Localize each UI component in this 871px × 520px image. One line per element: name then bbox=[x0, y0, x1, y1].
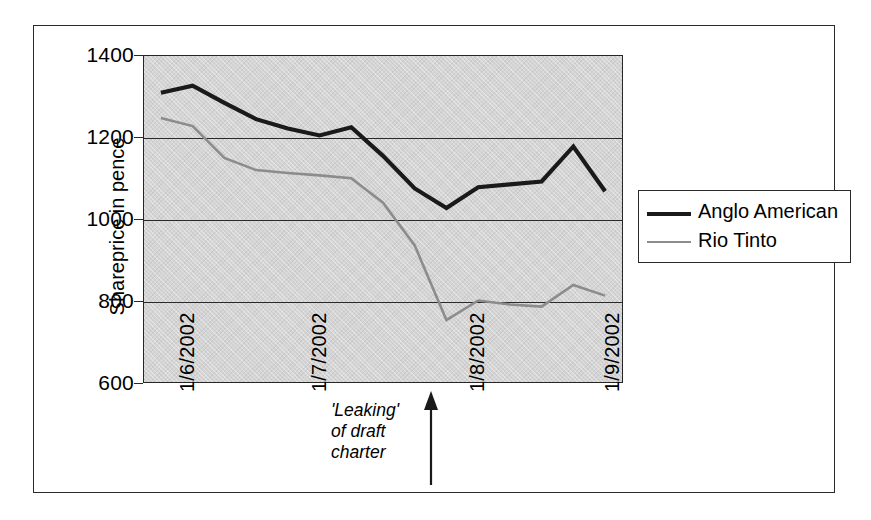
legend-label-rio-tinto: Rio Tinto bbox=[698, 229, 777, 252]
up-arrow-icon bbox=[421, 390, 441, 485]
series-line-anglo-american bbox=[161, 86, 605, 208]
legend-item-rio-tinto: Rio Tinto bbox=[647, 226, 838, 255]
y-tick-mark-1400 bbox=[134, 55, 143, 56]
legend-swatch-anglo-american bbox=[647, 205, 691, 219]
annotation-line-2: of draft bbox=[331, 421, 427, 442]
y-axis-title: Shareprice in pence bbox=[106, 77, 129, 377]
series-line-rio-tinto bbox=[161, 118, 605, 320]
x-tick-label-1-8-2002: 1/8/2002 bbox=[466, 313, 489, 392]
y-tick-mark-1000 bbox=[134, 219, 143, 220]
annotation-line-1: 'Leaking' bbox=[331, 400, 427, 421]
y-tick-label-1400: 1400 bbox=[86, 44, 134, 65]
x-tick-label-1-6-2002: 1/6/2002 bbox=[176, 313, 199, 392]
legend-swatch-rio-tinto bbox=[647, 234, 691, 248]
annotation-leaking-of-draft-charter: 'Leaking' of draft charter bbox=[331, 400, 427, 463]
y-tick-mark-600 bbox=[134, 383, 143, 384]
y-axis: 1400 1200 1000 800 600 Shareprice in pen… bbox=[60, 55, 134, 383]
annotation-line-3: charter bbox=[331, 442, 427, 463]
legend: Anglo American Rio Tinto bbox=[638, 190, 851, 263]
series-plot bbox=[144, 56, 622, 382]
plot-area bbox=[143, 55, 623, 383]
legend-item-anglo-american: Anglo American bbox=[647, 197, 838, 226]
legend-label-anglo-american: Anglo American bbox=[698, 200, 838, 223]
x-tick-label-1-9-2002: 1/9/2002 bbox=[601, 313, 624, 392]
x-tick-label-1-7-2002: 1/7/2002 bbox=[308, 313, 331, 392]
y-tick-mark-1200 bbox=[134, 137, 143, 138]
y-tick-mark-800 bbox=[134, 301, 143, 302]
chart-figure: 1400 1200 1000 800 600 Shareprice in pen… bbox=[0, 0, 871, 520]
